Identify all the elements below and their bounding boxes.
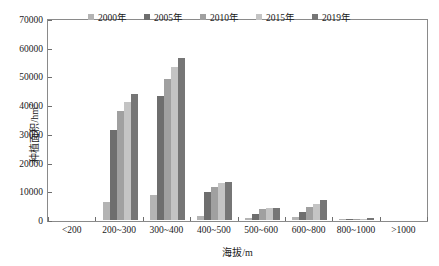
x-axis-tick-mark: [190, 217, 191, 221]
y-axis-tick-label: 50000: [1, 72, 47, 82]
y-axis-tick-label: 0: [1, 216, 47, 226]
bar: [367, 218, 374, 220]
y-axis-tick-label: 30000: [1, 130, 47, 140]
x-axis-tick-label: 200~300: [102, 225, 136, 235]
bar-group: [244, 21, 280, 220]
bar-group: [102, 21, 138, 220]
bar: [124, 102, 131, 220]
y-axis-tick-mark: [48, 164, 52, 165]
x-axis-tick-label: 400~500: [197, 225, 231, 235]
bar-group: [292, 21, 328, 220]
bar: [346, 219, 353, 220]
bar: [339, 219, 346, 220]
bar: [218, 183, 225, 220]
y-axis-tick-label: 10000: [1, 187, 47, 197]
x-axis-tick-mark: [332, 217, 333, 221]
x-axis-tick-mark: [285, 217, 286, 221]
x-axis-tick-mark: [427, 217, 428, 221]
y-axis-tick-mark: [48, 49, 52, 50]
x-axis-tick-mark: [48, 217, 49, 221]
bar-group: [386, 21, 422, 220]
bar: [259, 209, 266, 220]
bar: [313, 204, 320, 220]
bar: [164, 79, 171, 220]
bar: [273, 208, 280, 220]
x-axis-tick-mark: [380, 217, 381, 221]
bar-group: [149, 21, 185, 220]
x-axis-tick-labels: <200200~300300~400400~500500~600600~8008…: [47, 225, 428, 241]
y-axis-tick-mark: [48, 106, 52, 107]
bar: [150, 195, 157, 220]
bar: [103, 202, 110, 220]
bar: [171, 67, 178, 220]
bar: [225, 182, 232, 220]
y-axis-tick-mark: [48, 192, 52, 193]
bar: [117, 111, 124, 220]
x-axis-tick-label: 600~800: [292, 225, 326, 235]
y-axis-tick-label: 20000: [1, 159, 47, 169]
bar: [204, 192, 211, 220]
bar: [110, 130, 117, 220]
plot-area: [47, 19, 428, 222]
bar: [353, 219, 360, 220]
bar: [157, 96, 164, 220]
x-axis-tick-mark: [95, 217, 96, 221]
bar-group: [339, 21, 375, 220]
x-axis-tick-label: 800~1000: [337, 225, 375, 235]
y-axis-tick-label: 40000: [1, 101, 47, 111]
y-axis-tick-label: 70000: [1, 15, 47, 25]
bar: [320, 200, 327, 220]
x-axis-title: 海拔/m: [47, 244, 428, 259]
bar: [245, 218, 252, 220]
x-axis-tick-label: >1000: [391, 225, 415, 235]
y-axis-tick-label: 60000: [1, 44, 47, 54]
y-axis-tick-mark: [48, 135, 52, 136]
y-axis-tick-mark: [48, 77, 52, 78]
x-axis-tick-mark: [238, 217, 239, 221]
chart-figure: 种植面积/hm2 0100002000030000400005000060000…: [0, 0, 439, 266]
bar: [299, 212, 306, 220]
x-axis-tick-mark: [143, 217, 144, 221]
y-axis-tick-labels: 010000200003000040000500006000070000: [0, 0, 47, 266]
bar: [252, 214, 259, 220]
bar: [292, 217, 299, 220]
x-axis-tick-label: 300~400: [150, 225, 184, 235]
bar: [178, 58, 185, 220]
bar-series-container: [49, 21, 426, 220]
x-axis-tick-label: 500~600: [244, 225, 278, 235]
y-axis-tick-mark: [48, 20, 52, 21]
y-axis-tick-mark: [48, 221, 52, 222]
bar: [131, 94, 138, 220]
x-axis-tick-label: <200: [62, 225, 82, 235]
bar: [306, 207, 313, 220]
bar-group: [197, 21, 233, 220]
bar: [211, 187, 218, 220]
bar: [197, 216, 204, 220]
bar-group: [55, 21, 91, 220]
bar: [360, 219, 367, 220]
bar: [266, 208, 273, 220]
